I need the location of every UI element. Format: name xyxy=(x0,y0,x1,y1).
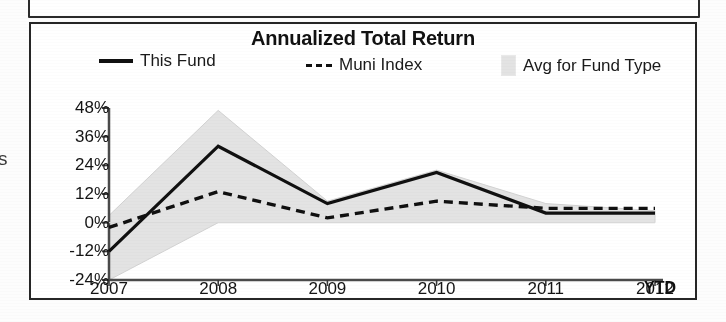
panel-above-fragment xyxy=(28,0,700,18)
ytd-label: YTD xyxy=(644,279,676,297)
y-tick-label: -12% xyxy=(47,241,109,261)
plot-svg xyxy=(31,24,695,298)
y-tick-label: 12% xyxy=(47,184,109,204)
y-tick-label: 0% xyxy=(47,213,109,233)
plot-area xyxy=(31,24,695,298)
x-tick-label: 2010 xyxy=(418,279,456,299)
x-tick-label: 2007 xyxy=(90,279,128,299)
y-tick-label: 48% xyxy=(47,98,109,118)
x-tick-label: 2011 xyxy=(528,279,565,299)
x-axis: 200720082009201020112012 xyxy=(31,279,695,305)
avg-for-fund-type-band xyxy=(109,110,655,280)
x-tick-label: 2008 xyxy=(199,279,237,299)
scanned-page: s Annualized Total Return This Fund Muni… xyxy=(0,0,726,322)
y-tick-label: 24% xyxy=(47,155,109,175)
y-axis: 48%36%24%12%0%-12%-24% xyxy=(45,24,109,298)
left-clipped-text: s xyxy=(0,148,20,170)
x-tick-label: 2009 xyxy=(308,279,346,299)
y-tick-label: 36% xyxy=(47,127,109,147)
annualized-total-return-panel: Annualized Total Return This Fund Muni I… xyxy=(29,22,697,300)
